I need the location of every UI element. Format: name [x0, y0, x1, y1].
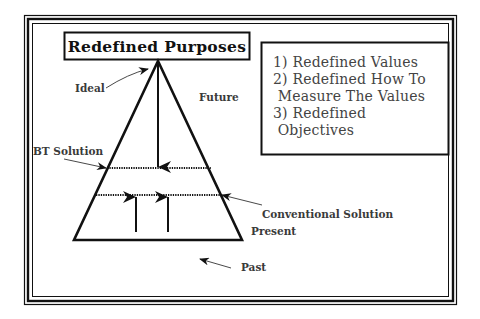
label-present: Present — [251, 225, 296, 237]
objective-line-4: 3) Redefined — [273, 105, 366, 121]
label-bt-solution: BT Solution — [33, 145, 103, 157]
objectives-box: 1) Redefined Values 2) Redefined How To … — [262, 43, 449, 155]
past-pointer-arrow-icon — [200, 259, 231, 268]
ideal-pointer-arrow-icon — [106, 69, 148, 88]
label-conventional-solution: Conventional Solution — [262, 208, 393, 220]
label-future: Future — [199, 91, 239, 103]
label-ideal: Ideal — [75, 82, 105, 94]
title-text: Redefined Purposes — [68, 37, 246, 56]
bt-solution-pointer-arrow-icon — [64, 159, 106, 168]
diagram-canvas: Redefined Purposes 1) Redefined Values 2… — [0, 0, 480, 319]
label-past: Past — [241, 261, 266, 273]
objective-line-2: 2) Redefined How To — [273, 71, 426, 87]
title-box: Redefined Purposes — [65, 33, 250, 60]
objective-line-1: 1) Redefined Values — [273, 54, 418, 70]
conventional-solution-pointer-arrow-icon — [222, 195, 262, 205]
objective-line-3: Measure The Values — [273, 88, 425, 104]
objective-line-5: Objectives — [273, 122, 354, 138]
